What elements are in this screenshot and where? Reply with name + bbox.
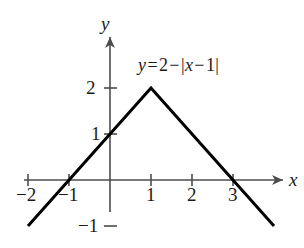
x-tick-label-1: 1 bbox=[146, 185, 156, 204]
y-axis bbox=[105, 37, 115, 212]
y-tick-label-2: 2 bbox=[86, 78, 96, 97]
y-tick-label-neg1: −1 bbox=[78, 216, 98, 235]
graph-figure: y x 2 1 −1 −2 −1 1 2 3 y=2−|x−1| bbox=[0, 0, 304, 248]
equation-close-bar: | bbox=[215, 55, 219, 75]
x-tick-label-2: 2 bbox=[187, 185, 197, 204]
function-curve bbox=[28, 88, 274, 226]
y-axis-label: y bbox=[101, 14, 109, 33]
equation-one: 1 bbox=[206, 55, 215, 75]
equation-minus-outer: − bbox=[168, 55, 181, 75]
plot-canvas bbox=[0, 0, 304, 248]
equation-minus-inner: − bbox=[193, 55, 206, 75]
equation-annotation: y=2−|x−1| bbox=[138, 56, 219, 74]
equation-two: 2 bbox=[159, 55, 168, 75]
x-axis-label: x bbox=[289, 170, 297, 189]
equation-equals: = bbox=[146, 55, 159, 75]
y-tick-label-1: 1 bbox=[91, 124, 101, 143]
x-tick-label-3: 3 bbox=[228, 185, 238, 204]
x-tick-label-neg1: −1 bbox=[58, 185, 78, 204]
x-tick-label-neg2: −2 bbox=[16, 185, 36, 204]
